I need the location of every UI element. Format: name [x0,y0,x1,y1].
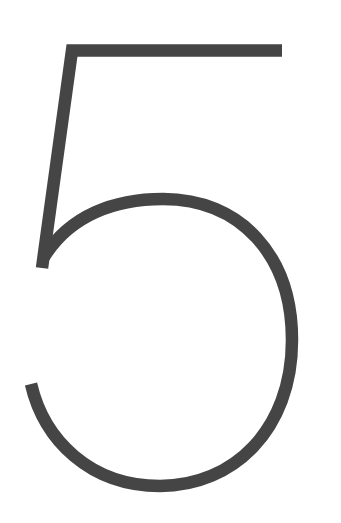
five-icon [0,0,341,523]
numeral-five-glyph: 5 [0,0,341,523]
